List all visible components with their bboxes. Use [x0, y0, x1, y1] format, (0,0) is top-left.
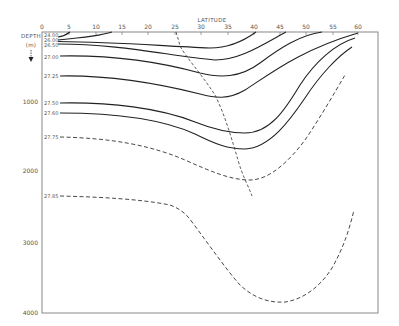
isopycnal-27-60 — [60, 47, 352, 149]
isopycnal-label: 27.25 — [44, 73, 58, 79]
isopycnal-24-00 — [58, 32, 70, 37]
x-tick-label: 40 — [250, 23, 258, 30]
deep-isopycnal-curves — [60, 75, 354, 302]
y-tick-label: 4000 — [23, 309, 38, 316]
down-arrow-icon — [29, 50, 34, 62]
x-tick-label: 45 — [276, 23, 284, 30]
x-axis-tick-labels: 0 5 10 15 20 25 30 35 40 45 50 55 60 — [40, 23, 362, 30]
x-tick-label: 20 — [144, 23, 152, 30]
y-tick-label: 1000 — [23, 98, 38, 105]
x-tick-label: 50 — [302, 23, 310, 30]
isopycnal-27-50 — [60, 38, 355, 133]
y-tick-label: 2000 — [23, 167, 38, 174]
x-tick-label: 5 — [67, 23, 71, 30]
x-tick-label: 60 — [354, 23, 362, 30]
isopycnal-label: 27.50 — [44, 100, 58, 106]
y-axis-title: DEPTH — [21, 33, 41, 39]
isopycnal-curves — [58, 32, 358, 149]
x-tick-label: 30 — [197, 23, 205, 30]
y-tick-label: 3000 — [23, 239, 38, 246]
x-tick-label: 15 — [118, 23, 126, 30]
isopycnal-27-85 — [60, 196, 354, 302]
x-tick-label: 35 — [224, 23, 232, 30]
depth-latitude-section-chart: LATITUDE 0 5 10 15 20 25 30 35 40 45 50 … — [0, 0, 399, 326]
x-tick-label: 0 — [40, 23, 44, 30]
isopycnal-label: 26.50 — [44, 42, 58, 48]
isopycnal-labels: 24.00 26.00 26.50 27.00 27.25 27.50 27.6… — [44, 32, 58, 199]
isopycnal-label: 27.60 — [44, 110, 58, 116]
core-axis-line — [176, 32, 252, 196]
y-axis-unit: (m) — [26, 42, 37, 48]
isopycnal-26-50-upper — [58, 32, 256, 48]
isopycnal-label: 27.85 — [44, 193, 58, 199]
isopycnal-26-00 — [58, 32, 112, 40]
isopycnal-27-75 — [60, 75, 345, 180]
x-tick-label: 10 — [92, 23, 100, 30]
isopycnal-label: 27.75 — [44, 134, 58, 140]
isopycnal-27-00 — [60, 32, 322, 76]
y-axis-tick-labels: 1000 2000 3000 4000 — [23, 98, 38, 316]
x-tick-label: 55 — [329, 23, 337, 30]
isopycnal-label: 27.00 — [44, 54, 58, 60]
x-tick-label: 25 — [171, 23, 179, 30]
plot-frame — [42, 32, 378, 313]
